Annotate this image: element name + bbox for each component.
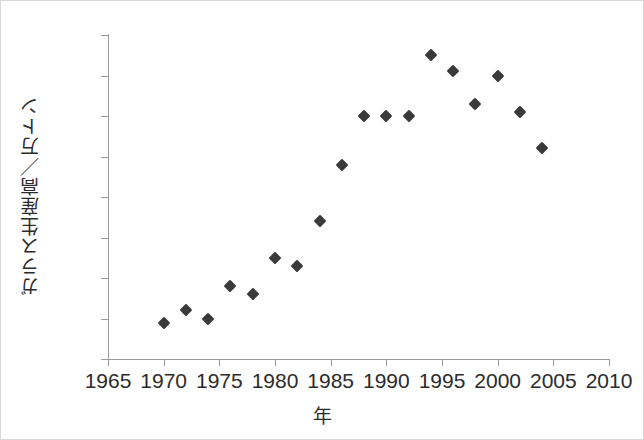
y-axis-tick (101, 116, 108, 117)
data-point (447, 65, 460, 78)
x-axis-tick (609, 359, 610, 366)
x-axis-tick-label: 2005 (530, 370, 577, 391)
x-axis-tick-label: 1995 (419, 370, 466, 391)
x-axis-tick (164, 359, 165, 366)
data-point (157, 316, 170, 329)
data-point (491, 69, 504, 82)
x-axis-tick (275, 359, 276, 366)
data-point (202, 312, 215, 325)
data-point (313, 215, 326, 228)
x-axis-tick-label: 1990 (363, 370, 410, 391)
x-axis-tick-label: 2010 (586, 370, 633, 391)
data-point (424, 49, 437, 62)
data-point (358, 110, 371, 123)
x-axis-tick (442, 359, 443, 366)
data-point (514, 106, 527, 119)
x-axis-tick-label: 2000 (474, 370, 521, 391)
x-axis-tick (553, 359, 554, 366)
y-axis-tick (101, 238, 108, 239)
x-axis-line (108, 359, 610, 360)
y-axis-tick (101, 35, 108, 36)
data-point (469, 97, 482, 110)
y-axis-tick (101, 76, 108, 77)
data-point (224, 280, 237, 293)
data-point (180, 304, 193, 317)
x-axis-tick (331, 359, 332, 366)
x-axis-tick-label: 1965 (85, 370, 132, 391)
chart-figure: ガラス生産高／万トン 80706050302040100 19651970197… (0, 0, 644, 440)
data-point (291, 259, 304, 272)
x-axis-tick-label: 1975 (196, 370, 243, 391)
y-axis-title: ガラス生産高／万トン (15, 1, 45, 391)
x-axis-title-text: 年 (313, 406, 332, 427)
x-axis-tick-label: 1980 (252, 370, 299, 391)
x-axis-tick (386, 359, 387, 366)
data-point (246, 288, 259, 301)
data-point (536, 142, 549, 155)
x-axis-tick-label: 1985 (307, 370, 354, 391)
y-axis-tick (101, 278, 108, 279)
data-point (380, 110, 393, 123)
plot-area: 80706050302040100 1965197019751980198519… (108, 35, 609, 359)
x-axis-tick-label: 1970 (140, 370, 187, 391)
y-axis-tick (101, 157, 108, 158)
data-point (335, 158, 348, 171)
x-axis-tick (219, 359, 220, 366)
y-axis-title-text: ガラス生産高／万トン (17, 96, 44, 296)
y-axis-tick (101, 197, 108, 198)
x-axis-title: 年 (1, 401, 643, 428)
y-axis-tick (101, 359, 108, 360)
x-axis-tick (108, 359, 109, 366)
data-point (402, 110, 415, 123)
y-axis-tick (101, 319, 108, 320)
x-axis-tick (498, 359, 499, 366)
data-point (269, 251, 282, 264)
